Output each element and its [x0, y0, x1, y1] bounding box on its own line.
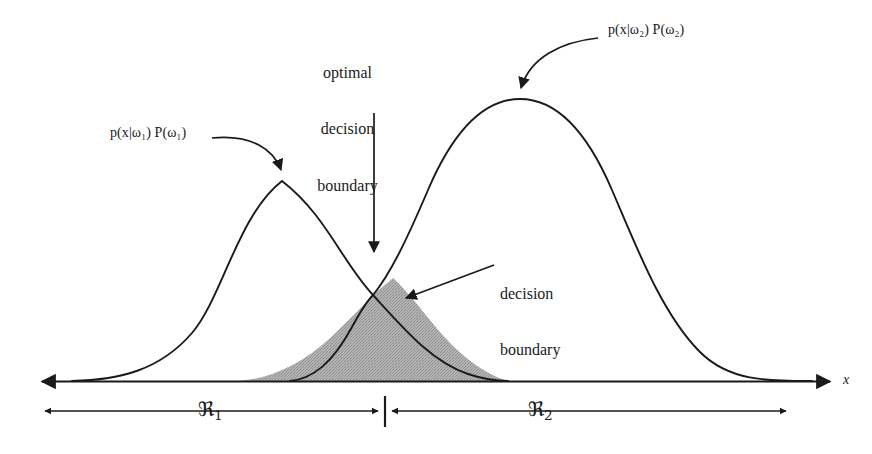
class2-density-leader-arrow [521, 38, 598, 88]
error-shaded-region [238, 278, 508, 381]
decision-boundary-line-2: boundary [500, 341, 560, 360]
class1-density-leader-arrow [212, 137, 281, 170]
region-1-label: ℜ1 [198, 398, 223, 423]
x-axis-label: x [843, 372, 849, 389]
optimal-boundary-line-2: decision [295, 120, 400, 139]
decision-boundary-leader-arrow [406, 265, 494, 298]
decision-boundary-label: decision boundary [500, 247, 560, 398]
optimal-boundary-line-3: boundary [295, 177, 400, 196]
class2-density-label: p(x|ω₂) P(ω₂) [608, 22, 684, 39]
region-2-label: ℜ2 [528, 398, 553, 423]
region-2-symbol: ℜ [528, 397, 544, 421]
region-1-symbol: ℜ [198, 397, 214, 421]
region-1-subscript: 1 [214, 407, 223, 423]
figure-canvas [0, 0, 872, 454]
optimal-boundary-line-1: optimal [295, 64, 400, 83]
region-2-subscript: 2 [544, 407, 553, 423]
decision-boundary-line-1: decision [500, 285, 560, 304]
class1-density-label: p(x|ω₁) P(ω₁) [110, 125, 186, 142]
optimal-decision-boundary-label: optimal decision boundary [295, 26, 400, 234]
bayes-decision-figure: p(x|ω₁) P(ω₁) p(x|ω₂) P(ω₂) optimal deci… [0, 0, 872, 454]
